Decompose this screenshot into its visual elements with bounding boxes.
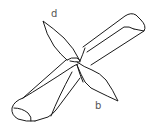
diagram: d b xyxy=(0,0,157,128)
lower-tail-b xyxy=(77,62,118,101)
upper-tail-d xyxy=(43,21,85,61)
label-b: b xyxy=(95,101,101,111)
rolled-cylinder-with-knot-drawing xyxy=(0,0,157,128)
cylinder-lower-section xyxy=(12,60,80,121)
label-d: d xyxy=(51,9,57,19)
cylinder-upper-section xyxy=(83,14,145,65)
